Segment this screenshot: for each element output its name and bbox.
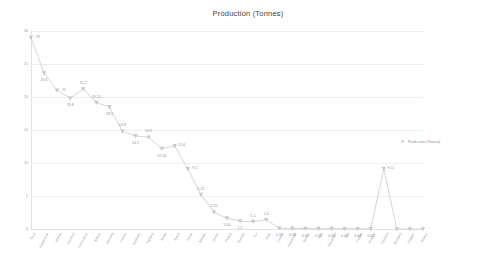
data-point-label: 9.11: [387, 166, 394, 170]
x-axis-tick-label: Potato: [224, 232, 232, 243]
data-point-label: 23.6: [41, 78, 48, 82]
series-line-layer: [31, 31, 423, 229]
x-axis-tick-label: Soybean: [131, 232, 141, 246]
chart-container: Production (Tonnes) 051015202530 2923.62…: [0, 0, 496, 272]
x-axis-tick-label: Onion: [212, 232, 220, 242]
x-axis-tick-label: Jute: [317, 232, 324, 240]
data-point-label: 1.2: [238, 226, 243, 230]
data-point-label: 1.64: [224, 223, 231, 227]
x-axis-tick-label: Pepper: [407, 232, 416, 244]
x-axis-tick-label: Maize: [94, 232, 102, 242]
x-axis-tick-label: Coconut: [66, 232, 76, 245]
legend-marker-icon: [400, 139, 405, 144]
x-axis-tick-label: Bajra: [173, 232, 180, 241]
data-point-label: 5.22: [197, 187, 204, 191]
series-line: [31, 38, 423, 229]
x-axis-tick-label: Banana: [106, 232, 115, 244]
x-axis-tick-label: Ragi: [265, 232, 272, 240]
x-axis-tick-label: Jowar: [159, 232, 167, 242]
legend-label: Production (Tonnes): [408, 140, 440, 144]
data-point-label: 14.1: [132, 141, 139, 145]
data-point-label: 2.55: [210, 204, 217, 208]
y-axis-tick-label: 25: [24, 62, 28, 66]
x-axis-tick-label: Wheat: [54, 232, 62, 243]
data-point-label: 1.4: [264, 212, 269, 216]
data-point-label: 12.16: [157, 154, 166, 158]
x-axis-tick-label: Tapioca: [145, 232, 154, 245]
chart-legend: Production (Tonnes): [400, 139, 440, 144]
y-axis-tick-label: 20: [24, 95, 28, 99]
data-point-marker[interactable]: [55, 89, 59, 93]
x-axis-tick-label: Groundnut: [78, 232, 89, 248]
data-point-marker[interactable]: [68, 96, 72, 100]
data-point-label: 21: [62, 88, 66, 92]
x-axis-tick-label: Cashew: [380, 232, 389, 245]
data-point-label: 12.6: [178, 143, 185, 147]
data-point-marker[interactable]: [107, 105, 111, 109]
chart-title: Production (Tonnes): [0, 9, 496, 18]
data-point-marker[interactable]: [382, 167, 386, 171]
y-axis-tick-label: 15: [24, 128, 28, 132]
x-axis-tick-label: Cotton: [120, 232, 128, 243]
data-point-label: 18.5: [106, 112, 113, 116]
x-axis-tick-label: Rice: [30, 232, 37, 240]
data-point-label: 29: [36, 35, 40, 39]
y-axis-tick-label: 5: [26, 194, 28, 198]
x-axis-tick-label: Others: [420, 232, 428, 243]
data-point-label: 19.8: [67, 103, 74, 107]
x-axis-tick-label: Tur: [253, 232, 259, 238]
data-point-marker[interactable]: [29, 36, 33, 40]
x-axis-tick-label: Mustard: [393, 232, 402, 245]
y-axis-tick-label: 30: [24, 29, 28, 33]
data-point-label: 9.1: [192, 166, 197, 170]
data-point-label: 14.8: [119, 123, 126, 127]
data-point-marker[interactable]: [159, 147, 163, 151]
data-point-label: 21.2: [80, 81, 87, 85]
data-point-label: 13.9: [145, 129, 152, 133]
x-axis-tick-label: Mango: [198, 232, 207, 243]
data-point-label: 1.1: [251, 214, 256, 218]
plot-area: 051015202530 2923.62119.821.219.1518.514…: [31, 31, 423, 229]
data-point-label: 19.15: [92, 95, 101, 99]
x-axis-tick-label: Tomato: [237, 232, 246, 244]
x-axis-tick-label: Gram: [186, 232, 194, 242]
x-axis-tick-label: Sugarcane: [38, 232, 49, 249]
y-axis-tick-label: 0: [26, 227, 28, 231]
y-axis-tick-label: 10: [24, 161, 28, 165]
data-point-marker[interactable]: [186, 167, 190, 171]
